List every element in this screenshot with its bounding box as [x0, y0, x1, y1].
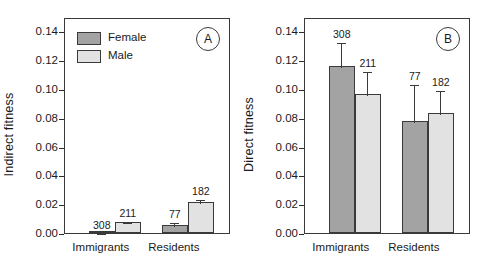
error-bar-cap	[97, 234, 106, 235]
error-bar	[414, 85, 415, 123]
x-tick-label: Residents	[388, 241, 439, 253]
bar-sample-size-label: 211	[359, 58, 376, 69]
y-tick-label: 0.04	[36, 171, 58, 183]
error-bar-cap	[196, 200, 205, 201]
bar-sample-size-label: 308	[93, 220, 111, 231]
legend-swatch-female	[77, 32, 101, 45]
bar-sample-size-label: 211	[119, 208, 136, 219]
bar-sample-size-label: 77	[169, 209, 181, 220]
plot-area: 30821177182AFemaleMale	[64, 18, 230, 234]
bar-immigrants-male	[355, 94, 381, 233]
x-tick-label: Immigrants	[72, 241, 129, 253]
y-axis-label: Direct fitness	[240, 0, 258, 269]
y-tick-label: 0.00	[36, 228, 58, 240]
panel-a: Indirect fitness0.000.020.040.060.080.10…	[0, 0, 240, 269]
y-tick-label: 0.02	[36, 199, 58, 211]
y-tick-label: 0.06	[276, 142, 298, 154]
bar-sample-size-label: 182	[192, 186, 210, 197]
bar-sample-size-label: 308	[333, 29, 351, 40]
y-tick-mark	[59, 234, 64, 235]
y-axis-label: Indirect fitness	[0, 0, 18, 269]
y-tick-label: 0.02	[276, 199, 298, 211]
y-tick-label: 0.00	[276, 228, 298, 240]
y-tick-label: 0.10	[36, 84, 58, 96]
legend-swatch-male	[77, 50, 101, 63]
error-bar	[341, 43, 342, 68]
bar-sample-size-label: 77	[409, 71, 421, 82]
legend-item: Male	[77, 49, 146, 63]
y-tick-label: 0.06	[36, 142, 58, 154]
error-bar-cap	[170, 223, 179, 224]
y-tick-label: 0.10	[276, 84, 298, 96]
bar-residents-male	[188, 202, 214, 233]
y-tick-mark	[299, 234, 304, 235]
error-bar-cap	[410, 85, 419, 86]
x-tick-label: Residents	[148, 241, 199, 253]
bar-residents-female	[402, 121, 428, 233]
bar-sample-size-label: 182	[432, 77, 450, 88]
figure-root: Indirect fitness0.000.020.040.060.080.10…	[0, 0, 480, 269]
y-tick-label: 0.12	[36, 55, 58, 67]
bar-residents-male	[428, 113, 454, 233]
panel-badge: A	[196, 27, 220, 51]
bar-immigrants-female	[329, 66, 355, 233]
error-bar-cap	[337, 43, 346, 44]
y-tick-label: 0.04	[276, 171, 298, 183]
plot-area: 30821177182B	[304, 18, 470, 234]
plot-inner: 30821177182	[305, 19, 469, 233]
error-bar-cap	[436, 91, 445, 92]
error-bar-cap	[123, 222, 132, 223]
y-axis-ticks: 0.000.020.040.060.080.100.120.14	[258, 18, 298, 234]
legend-label: Female	[108, 32, 146, 44]
error-bar-cap	[363, 72, 372, 73]
y-tick-label: 0.08	[276, 113, 298, 125]
y-tick-label: 0.14	[36, 27, 58, 39]
error-bar	[440, 91, 441, 115]
legend-item: Female	[77, 31, 146, 45]
y-axis-ticks: 0.000.020.040.060.080.100.120.14	[18, 18, 58, 234]
y-tick-label: 0.14	[276, 27, 298, 39]
y-tick-label: 0.08	[36, 113, 58, 125]
x-tick-label: Immigrants	[312, 241, 369, 253]
y-tick-label: 0.12	[276, 55, 298, 67]
legend: FemaleMale	[77, 31, 146, 67]
error-bar	[367, 72, 368, 96]
legend-label: Male	[108, 50, 133, 62]
panel-badge: B	[436, 27, 460, 51]
panel-b: Direct fitness0.000.020.040.060.080.100.…	[240, 0, 480, 269]
